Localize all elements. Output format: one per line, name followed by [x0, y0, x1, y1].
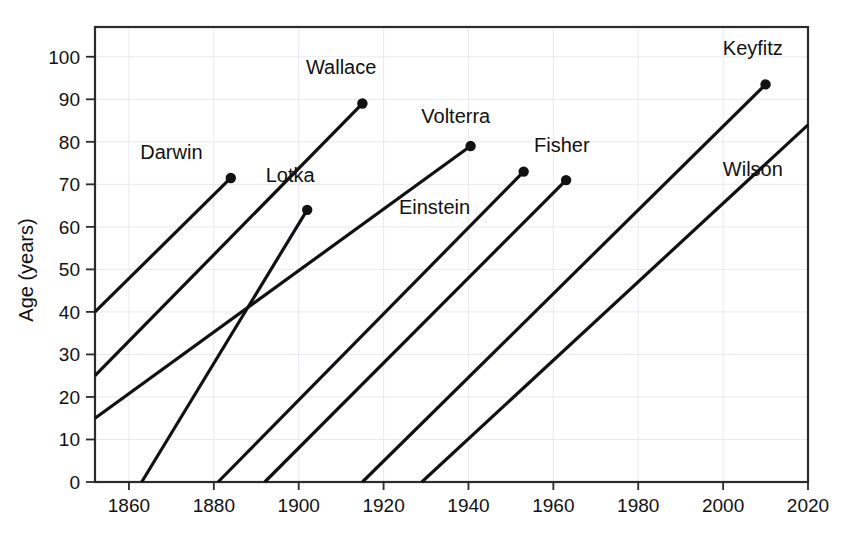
y-tick-label: 40 [59, 302, 80, 323]
x-tick-label: 2020 [787, 495, 829, 516]
x-tick-label: 1860 [108, 495, 150, 516]
series-label-lotka: Lotka [266, 164, 316, 186]
series-label-keyfitz: Keyfitz [723, 37, 783, 59]
chart-canvas: DarwinWallaceVolterraLotkaEinsteinFisher… [0, 0, 846, 541]
series-label-einstein: Einstein [399, 196, 470, 218]
y-tick-label: 100 [48, 47, 80, 68]
death-dot-wallace [357, 98, 367, 108]
death-dot-keyfitz [760, 79, 770, 89]
ytick-labels-group: 0102030405060708090100 [48, 47, 80, 493]
x-tick-label: 2000 [702, 495, 744, 516]
x-tick-label: 1940 [447, 495, 489, 516]
series-label-volterra: Volterra [421, 105, 491, 127]
gridlines-group [95, 27, 808, 482]
x-tick-label: 1980 [617, 495, 659, 516]
death-dot-lotka [302, 205, 312, 215]
y-tick-label: 80 [59, 132, 80, 153]
y-tick-label: 50 [59, 259, 80, 280]
x-tick-label: 1960 [532, 495, 574, 516]
lifeline-wallace [95, 104, 362, 376]
xtick-labels-group: 186018801900192019401960198020002020 [108, 495, 829, 516]
y-tick-label: 20 [59, 387, 80, 408]
lifeline-darwin [95, 178, 231, 312]
y-tick-label: 70 [59, 174, 80, 195]
series-labels-group: DarwinWallaceVolterraLotkaEinsteinFisher… [140, 37, 783, 218]
y-tick-label: 0 [69, 472, 80, 493]
death-dot-volterra [465, 141, 475, 151]
series-label-wilson: Wilson [723, 158, 783, 180]
y-axis-title: Age (years) [15, 218, 37, 321]
x-tick-label: 1900 [278, 495, 320, 516]
x-tick-label: 1920 [362, 495, 404, 516]
death-dot-fisher [561, 175, 571, 185]
series-label-darwin: Darwin [140, 141, 202, 163]
series-label-wallace: Wallace [306, 56, 376, 78]
chart-figure: DarwinWallaceVolterraLotkaEinsteinFisher… [0, 0, 846, 541]
death-dot-einstein [518, 166, 528, 176]
death-dot-darwin [226, 173, 236, 183]
lifeline-lotka [142, 210, 308, 482]
y-tick-label: 30 [59, 344, 80, 365]
y-tick-label: 90 [59, 89, 80, 110]
lifeline-fisher [265, 180, 566, 482]
y-tick-label: 60 [59, 217, 80, 238]
series-label-fisher: Fisher [534, 134, 590, 156]
y-tick-label: 10 [59, 429, 80, 450]
plot-frame [95, 27, 808, 482]
x-tick-label: 1880 [193, 495, 235, 516]
